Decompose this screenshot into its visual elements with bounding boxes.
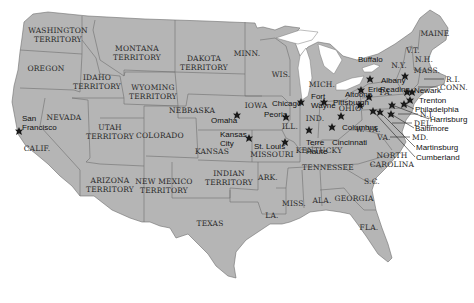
region-label-arizona: ARIZONATERRITORY [86,176,135,194]
city-label: Columbus [342,123,378,132]
city-label: Peoria [264,110,288,119]
region-label-mich: MICH. [309,80,335,89]
callout-label: CONN. [440,83,468,92]
region-label-georgia: GEORGIA [334,194,373,203]
region-label-new-mexico: NEW MEXICOTERRITORY [135,177,192,195]
region-label-nevada: NEVADA [47,113,82,122]
city-label: Chicago [272,99,302,108]
region-label-colorado: COLORADO [136,131,184,140]
region-label-north-carolina: NORTHCAROLINA [370,151,415,169]
region-label-ark: ARK. [257,173,278,182]
region-label-ny: N.Y. [391,61,407,70]
region-label-vt: V.T. [405,46,420,55]
city-label: Pittsburgh [333,98,369,107]
region-label-ind: IND. [306,114,324,123]
region-label-texas: TEXAS [196,219,223,228]
callout-label: N.J. [420,110,434,119]
city-label: Cumberland [416,153,460,162]
us-historical-map: WASHINGTONTERRITORYOREGONIDAHOTERRITORYM… [0,0,474,303]
city-chicago: Chicago [272,98,305,108]
region-label-nh: N.H. [415,55,433,64]
callout-label: DEL. [414,119,434,128]
city-label: Martinsburg [416,143,458,152]
region-label-wyoming: WYOMINGTERRITORY [129,83,178,101]
city-label: Buffalo [358,55,383,64]
city-label: Albany [381,76,405,85]
region-label-mass: MASS. [414,66,440,75]
city-label: Reading [380,85,410,94]
city-label: Newark [414,86,442,95]
region-label-maine: MAINE [420,29,449,38]
region-label-tennessee: TENNESSEE [302,163,354,172]
region-label-california: CALIF. [24,144,51,153]
region-label-iowa: IOWA [245,101,268,110]
region-label-sc: S.C. [364,177,380,186]
city-label: St. Louis [254,142,285,151]
city-label: Omaha [211,116,238,125]
city-label: Trenton [419,96,446,105]
region-label-kansas: KANSAS [195,147,229,156]
region-label-fla: FLA. [360,223,379,232]
region-label-miss: MISS. [282,199,306,208]
region-label-va: VA. [376,133,390,142]
city-label: Harrisburg [430,115,467,124]
region-label-missouri: MISSOURI [250,150,293,159]
region-label-ala: ALA. [312,196,332,205]
region-label-wis: WIS. [272,70,291,79]
region-label-montana: MONTANATERRITORY [113,44,162,62]
city-label: Cincinnati [332,138,367,147]
region-label-washington: WASHINGTONTERRITORY [28,26,88,44]
region-label-minn: MINN. [234,49,261,58]
callout-label: MD. [412,133,428,142]
region-label-oregon: OREGON [27,64,64,73]
region-label-ill: ILL. [282,122,298,131]
city-newark: Newark [408,86,442,96]
region-label-la: LA. [265,211,278,220]
region-label-nebraska: NEBRASKA [169,106,215,115]
